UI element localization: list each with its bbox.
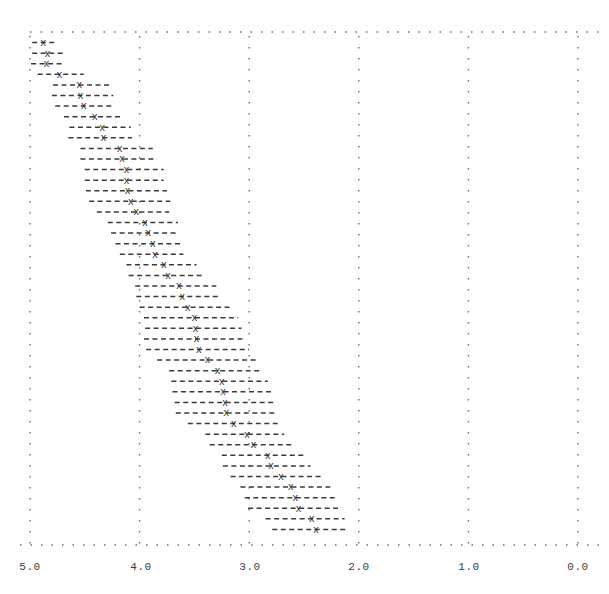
data-point-marker: x xyxy=(125,186,131,197)
x-tick-label-1: 1.0 xyxy=(458,561,479,573)
data-point-marker: x xyxy=(265,451,271,462)
data-row: x xyxy=(245,493,335,504)
data-point-marker: x xyxy=(191,313,197,324)
data-row: x xyxy=(115,239,183,250)
data-point-marker: x xyxy=(76,80,82,91)
data-row: x xyxy=(171,377,267,388)
data-row: x xyxy=(272,525,347,536)
data-point-marker: x xyxy=(77,91,83,102)
data-row: x xyxy=(175,398,274,409)
x-tick-label-5: 5.0 xyxy=(19,561,40,573)
data-row: x xyxy=(223,461,311,472)
data-row: x xyxy=(31,59,64,70)
data-row: x xyxy=(266,514,345,525)
data-row: x xyxy=(38,70,84,81)
data-row: x xyxy=(248,504,338,515)
x-tick-label-4: 4.0 xyxy=(130,561,151,573)
data-point-marker: x xyxy=(292,493,298,504)
x-tick-label-2: 2.0 xyxy=(348,561,369,573)
data-row: x xyxy=(32,38,54,49)
data-row: x xyxy=(129,271,204,282)
data-row: x xyxy=(210,440,293,451)
x-tick-label-0: 0.0 xyxy=(567,561,588,573)
data-point-marker: x xyxy=(142,218,148,229)
data-row: x xyxy=(205,430,284,441)
grid-layer xyxy=(20,32,600,545)
data-row: x xyxy=(135,281,216,292)
data-row: x xyxy=(231,472,323,483)
data-point-marker: x xyxy=(278,472,284,483)
data-row: x xyxy=(85,176,164,187)
data-point-marker: x xyxy=(220,387,226,398)
data-row: x xyxy=(80,154,157,165)
data-point-marker: x xyxy=(123,165,129,176)
scatter-plot-canvas: xxxxxxxxxxxxxxxxxxxxxxxxxxxxxxxxxxxxxxxx… xyxy=(0,0,609,594)
data-point-marker: x xyxy=(309,514,315,525)
data-point-marker: x xyxy=(313,525,319,536)
data-row: x xyxy=(89,197,170,208)
data-row: x xyxy=(240,482,330,493)
data-point-marker: x xyxy=(150,239,156,250)
data-point-marker: x xyxy=(268,461,274,472)
chart-figure: xxxxxxxxxxxxxxxxxxxxxxxxxxxxxxxxxxxxxxxx… xyxy=(0,0,609,594)
data-row: x xyxy=(80,144,152,155)
data-point-marker: x xyxy=(192,324,198,335)
data-row: x xyxy=(108,218,178,229)
data-point-marker: x xyxy=(231,419,237,430)
data-point-marker: x xyxy=(288,482,294,493)
data-row: x xyxy=(146,345,249,356)
data-point-marker: x xyxy=(145,228,151,239)
data-row: x xyxy=(52,91,113,102)
data-point-marker: x xyxy=(123,176,129,187)
data-row: x xyxy=(157,355,256,366)
data-row: x xyxy=(111,228,179,239)
x-tick-label-3: 3.0 xyxy=(239,561,260,573)
data-point-marker: x xyxy=(205,355,211,366)
data-point-marker: x xyxy=(128,197,134,208)
data-point-marker: x xyxy=(45,49,51,60)
data-point-marker: x xyxy=(152,250,158,261)
data-row: x xyxy=(188,419,278,430)
data-point-marker: x xyxy=(117,144,123,155)
data-point-marker: x xyxy=(214,366,220,377)
data-row: x xyxy=(176,408,275,419)
data-row: x xyxy=(69,123,130,134)
data-row: x xyxy=(120,250,184,261)
data-point-marker: x xyxy=(296,504,302,515)
data-point-marker: x xyxy=(133,207,139,218)
data-row: x xyxy=(144,334,245,345)
data-point-marker: x xyxy=(244,430,250,441)
data-point-marker: x xyxy=(119,154,125,165)
data-point-marker: x xyxy=(194,334,200,345)
data-row: x xyxy=(145,324,241,335)
data-point-marker: x xyxy=(251,440,257,451)
data-point-marker: x xyxy=(222,398,228,409)
data-row: x xyxy=(86,186,167,197)
data-point-marker: x xyxy=(165,271,171,282)
data-point-marker: x xyxy=(196,345,202,356)
data-layer: xxxxxxxxxxxxxxxxxxxxxxxxxxxxxxxxxxxxxxxx… xyxy=(31,38,347,536)
data-point-marker: x xyxy=(92,112,98,123)
data-point-marker: x xyxy=(185,303,191,314)
data-point-marker: x xyxy=(43,59,49,70)
data-point-marker: x xyxy=(223,408,229,419)
data-point-marker: x xyxy=(179,292,185,303)
data-point-marker: x xyxy=(100,133,106,144)
data-row: x xyxy=(55,101,114,112)
data-point-marker: x xyxy=(57,70,63,81)
data-row: x xyxy=(172,387,271,398)
data-row: x xyxy=(53,80,110,91)
data-row: x xyxy=(64,112,123,123)
data-row: x xyxy=(169,366,261,377)
data-row: x xyxy=(85,165,164,176)
data-point-marker: x xyxy=(99,123,105,134)
data-row: x xyxy=(126,260,196,271)
data-row: x xyxy=(68,133,132,144)
data-row: x xyxy=(140,303,230,314)
data-point-marker: x xyxy=(40,38,46,49)
data-row: x xyxy=(144,313,238,324)
data-row: x xyxy=(97,207,169,218)
data-point-marker: x xyxy=(176,281,182,292)
data-point-marker: x xyxy=(161,260,167,271)
data-row: x xyxy=(136,292,219,303)
